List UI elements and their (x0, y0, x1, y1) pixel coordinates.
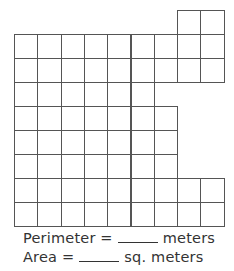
grid-square (107, 202, 131, 227)
grid-square (37, 34, 61, 59)
grid-square (84, 34, 108, 59)
grid-square (131, 34, 155, 59)
grid-square (177, 10, 201, 35)
grid-square (61, 34, 85, 59)
grid-square (61, 202, 85, 227)
grid-square (131, 106, 155, 131)
grid-square (14, 82, 38, 107)
grid-square (131, 154, 155, 179)
grid-square (200, 178, 224, 203)
grid-square (107, 106, 131, 131)
grid-square (107, 130, 131, 155)
grid-square (177, 178, 201, 203)
perimeter-question: Perimeter =meters (23, 230, 215, 246)
grid-square (154, 202, 178, 227)
grid-square (14, 58, 38, 83)
square-grid-figure (0, 0, 234, 230)
grid-square (154, 178, 178, 203)
grid-square (154, 58, 178, 83)
grid-square (61, 130, 85, 155)
perimeter-unit: meters (163, 230, 215, 246)
grid-square (84, 58, 108, 83)
area-unit: sq. meters (124, 249, 203, 265)
grid-square (14, 178, 38, 203)
grid-square (107, 82, 131, 107)
grid-square (61, 58, 85, 83)
grid-square (14, 154, 38, 179)
grid-square (37, 58, 61, 83)
grid-square (107, 34, 131, 59)
grid-square (154, 154, 178, 179)
grid-square (37, 154, 61, 179)
grid-square (107, 154, 131, 179)
grid-square (177, 34, 201, 59)
grid-square (61, 178, 85, 203)
grid-square (131, 58, 155, 83)
grid-square (131, 202, 155, 227)
grid-square (131, 178, 155, 203)
grid-square (84, 106, 108, 131)
grid-square (84, 130, 108, 155)
grid-square (14, 106, 38, 131)
perimeter-label: Perimeter = (23, 230, 113, 246)
grid-square (154, 106, 178, 131)
grid-square (200, 58, 224, 83)
area-label: Area = (23, 249, 74, 265)
grid-square (37, 202, 61, 227)
grid-square (154, 130, 178, 155)
grid-square (177, 202, 201, 227)
grid-square (14, 202, 38, 227)
perimeter-answer-blank[interactable] (118, 230, 158, 243)
grid-square (37, 130, 61, 155)
grid-square (37, 178, 61, 203)
grid-square (200, 34, 224, 59)
grid-square (200, 202, 224, 227)
grid-square (37, 106, 61, 131)
grid-square (154, 34, 178, 59)
grid-square (14, 130, 38, 155)
area-answer-blank[interactable] (79, 249, 119, 262)
grid-square (84, 202, 108, 227)
grid-square (107, 178, 131, 203)
grid-square (84, 178, 108, 203)
grid-square (61, 106, 85, 131)
grid-square (61, 82, 85, 107)
grid-square (200, 10, 224, 35)
grid-square (37, 82, 61, 107)
grid-square (61, 154, 85, 179)
grid-square (177, 58, 201, 83)
grid-square (107, 58, 131, 83)
grid-square (84, 154, 108, 179)
area-question: Area =sq. meters (23, 249, 203, 265)
grid-square (84, 82, 108, 107)
grid-square (131, 82, 155, 107)
grid-square (14, 34, 38, 59)
grid-square (131, 130, 155, 155)
